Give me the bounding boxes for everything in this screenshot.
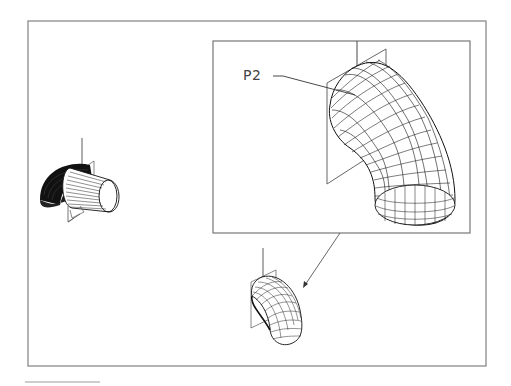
diagram-canvas [0, 0, 511, 386]
pointer-arrow [303, 233, 340, 288]
inset-elbow-view [273, 41, 455, 225]
bottom-elbow-view [251, 248, 302, 345]
left-elbow-view [40, 138, 119, 222]
p2-label: P2 [243, 67, 261, 83]
cylinder-hatch [63, 168, 119, 212]
